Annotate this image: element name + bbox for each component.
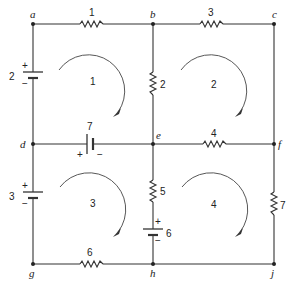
battery-7-label: 7 [87, 121, 93, 132]
battery-3-plus: + [22, 180, 28, 191]
node-label-e: e [156, 129, 161, 141]
node-label-g: g [29, 267, 35, 279]
resistor-6-label: 6 [87, 247, 93, 258]
battery-7-plus: + [77, 149, 83, 160]
battery-3-label: 3 [9, 191, 15, 202]
battery-6-plus: + [155, 216, 161, 227]
node-f [272, 142, 276, 146]
resistor-7 [271, 192, 277, 215]
loop-2-label: 2 [211, 79, 217, 90]
node-label-c: c [272, 8, 277, 20]
resistor-7-label: 7 [280, 200, 286, 211]
battery-3-minus: − [22, 198, 28, 209]
resistor-2-label: 2 [160, 79, 166, 90]
battery-2-label: 2 [9, 71, 15, 82]
node-e [151, 142, 155, 146]
node-label-d: d [20, 138, 26, 150]
node-b [151, 22, 155, 26]
loop-2-arrowhead [235, 108, 243, 117]
resistor-3-label: 3 [208, 7, 214, 18]
resistor-1-label: 1 [89, 7, 95, 18]
node-label-a: a [30, 8, 36, 20]
battery-2-minus: − [22, 78, 28, 89]
resistor-4 [203, 141, 226, 147]
loop-3-label: 3 [90, 198, 96, 209]
node-c [272, 22, 276, 26]
loop-1-arrowhead [113, 108, 121, 117]
loop-4-label: 4 [211, 199, 217, 210]
circuit-diagram: a b c d e f g h j 1 3 2 4 5 7 6 2 + − 7 … [0, 0, 289, 283]
resistor-3 [200, 21, 223, 27]
node-a [31, 22, 35, 26]
battery-6-label: 6 [166, 228, 172, 239]
loop-3-arrowhead [113, 228, 121, 237]
node-label-f: f [278, 138, 283, 150]
loop-4-arrowhead [235, 228, 243, 237]
battery-6-minus: − [155, 235, 161, 246]
resistor-5 [150, 180, 156, 202]
node-d [31, 142, 35, 146]
resistor-1 [80, 21, 103, 27]
node-g [31, 262, 35, 266]
loop-1-label: 1 [90, 76, 96, 87]
battery-2-plus: + [22, 60, 28, 71]
node-label-h: h [150, 267, 156, 279]
resistor-2 [150, 72, 156, 95]
node-label-b: b [150, 8, 156, 20]
node-label-j: j [269, 267, 274, 279]
resistor-6 [80, 261, 103, 267]
node-j [272, 262, 276, 266]
resistor-5-label: 5 [160, 186, 166, 197]
node-h [151, 262, 155, 266]
resistor-4-label: 4 [211, 128, 217, 139]
battery-7-minus: − [97, 149, 103, 160]
